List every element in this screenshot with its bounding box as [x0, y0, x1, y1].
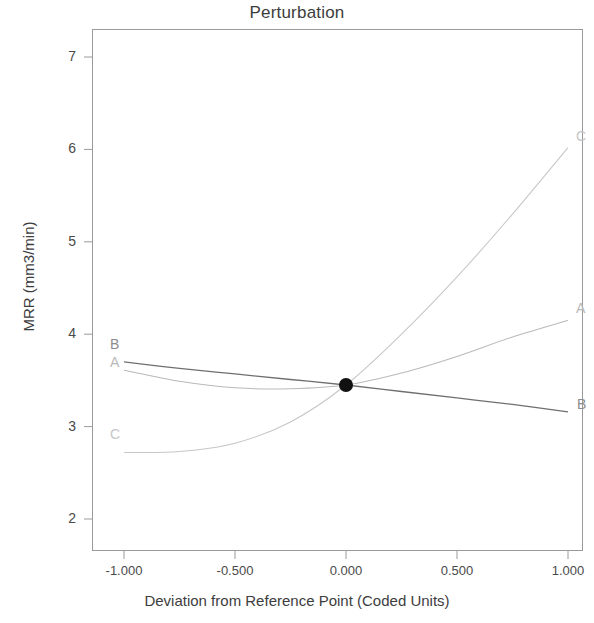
curve-label-right-a: A: [576, 301, 585, 315]
curve-label-left-b: B: [110, 337, 119, 351]
y-tick-label: 7: [50, 48, 76, 64]
y-tick-label: 3: [50, 418, 76, 434]
y-axis-title: MRR (mm3/min): [20, 167, 37, 387]
chart-title: Perturbation: [0, 3, 594, 23]
y-tick-label: 4: [50, 325, 76, 341]
x-tick-label: 0.000: [306, 563, 386, 578]
y-tick-label: 2: [50, 510, 76, 526]
x-tick-label: -1.000: [84, 563, 164, 578]
curve-label-right-b: B: [577, 397, 586, 411]
x-axis-title: Deviation from Reference Point (Coded Un…: [0, 592, 594, 609]
perturbation-chart-figure: Perturbation 234567 -1.000-0.5000.0000.5…: [0, 0, 594, 623]
plot-area: [92, 29, 583, 551]
x-tick-label: 0.500: [417, 563, 497, 578]
y-tick-label: 5: [50, 233, 76, 249]
x-tick-label: 1.000: [528, 563, 594, 578]
curve-label-left-a: A: [110, 355, 119, 369]
y-tick-label: 6: [50, 140, 76, 156]
x-tick-label: -0.500: [195, 563, 275, 578]
curve-label-right-c: C: [576, 129, 586, 143]
curve-label-left-c: C: [110, 427, 120, 441]
